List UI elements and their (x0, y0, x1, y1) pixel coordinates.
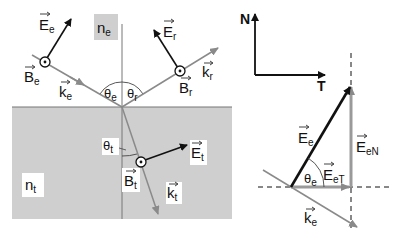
incident-k-label: ke (59, 80, 73, 102)
reflected-e-label: Er (163, 19, 177, 42)
right-et-label: EeT (323, 162, 345, 185)
transmitted-k-label: kt (167, 182, 178, 203)
svg-text:Be: Be (24, 68, 40, 87)
svg-text:EeT: EeT (323, 166, 345, 185)
axis-n-label: N (240, 11, 250, 27)
incident-e-label: Ee (39, 12, 55, 35)
svg-text:kr: kr (202, 63, 214, 82)
incident-b-out-of-page-icon (40, 57, 50, 67)
svg-text:Br: Br (179, 79, 193, 98)
incident-ray-arrow-icon (70, 77, 84, 85)
svg-text:Ee: Ee (39, 16, 55, 35)
svg-text:ke: ke (304, 209, 318, 228)
svg-text:EeN: EeN (356, 138, 379, 157)
theta-r-label: θr (127, 86, 138, 103)
reflected-b-out-of-page-icon (175, 66, 185, 76)
transmitted-b-out-of-page-icon (136, 157, 146, 167)
svg-text:Ee: Ee (298, 129, 314, 148)
fresnel-diagram: ne nt Ee (0, 0, 399, 240)
svg-text:Er: Er (163, 23, 177, 42)
right-theta-label: θe (304, 171, 317, 188)
right-k-label: ke (304, 207, 318, 228)
right-diagram: N T θe Ee EeN EeT ke (240, 11, 390, 228)
svg-text:ke: ke (59, 83, 73, 102)
reflected-b-label: Br (179, 76, 193, 98)
incident-b-label: Be (24, 65, 40, 87)
theta-e-label: θe (104, 86, 117, 103)
right-en-label: EeN (356, 134, 379, 157)
right-e-label: Ee (298, 125, 314, 148)
axis-t-label: T (317, 78, 326, 94)
left-diagram: ne nt Ee (12, 12, 232, 219)
reflected-k-label: kr (202, 61, 214, 82)
